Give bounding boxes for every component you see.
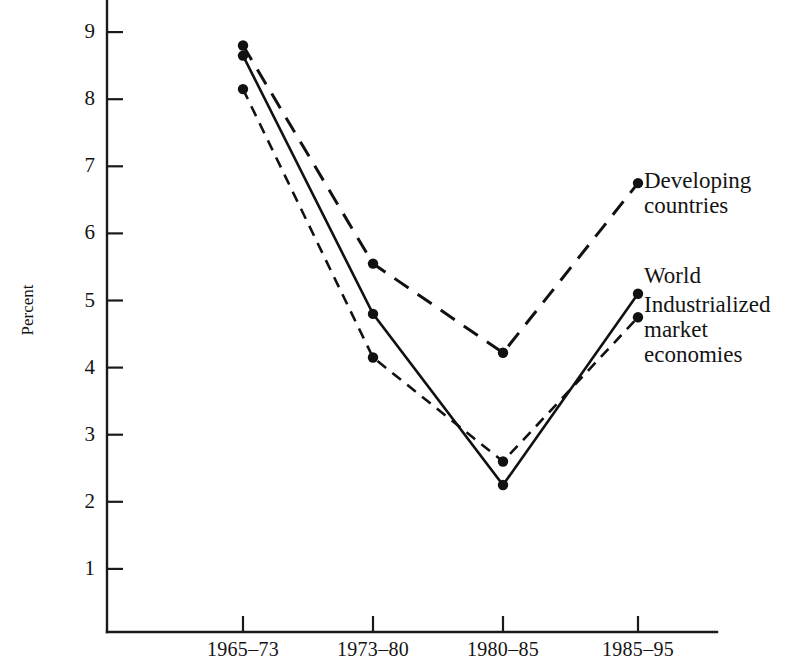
x-tick-label-2: 1980–85 xyxy=(433,638,573,660)
y-axis-ticks xyxy=(107,32,123,569)
data-point-marker xyxy=(498,348,508,358)
x-tick-label-3: 1985–95 xyxy=(568,638,708,660)
y-tick-label-5: 5 xyxy=(55,290,95,311)
data-point-marker xyxy=(238,50,248,60)
series-label-world: World xyxy=(644,263,701,288)
y-tick-label-1: 1 xyxy=(55,558,95,579)
data-point-marker xyxy=(368,352,378,362)
data-point-marker xyxy=(368,258,378,268)
data-point-marker xyxy=(368,309,378,319)
series-paths xyxy=(243,46,638,486)
y-tick-label-4: 4 xyxy=(55,357,95,378)
x-tick-label-1: 1973–80 xyxy=(303,638,443,660)
y-tick-label-7: 7 xyxy=(55,155,95,176)
data-point-marker xyxy=(633,312,643,322)
y-tick-label-2: 2 xyxy=(55,491,95,512)
chart-figure: 123456789 1965–731973–801980–851985–95 P… xyxy=(0,0,804,672)
series-line-world xyxy=(243,56,638,485)
series-markers xyxy=(238,40,643,490)
x-tick-label-0: 1965–73 xyxy=(173,638,313,660)
data-point-marker xyxy=(238,40,248,50)
series-line-developing-countries xyxy=(243,46,638,353)
data-point-marker xyxy=(498,480,508,490)
data-point-marker xyxy=(633,289,643,299)
y-axis-title: Percent xyxy=(18,260,38,360)
y-tick-label-9: 9 xyxy=(55,21,95,42)
data-point-marker xyxy=(498,456,508,466)
series-label-developing-countries: Developing countries xyxy=(644,168,751,218)
y-tick-label-6: 6 xyxy=(55,222,95,243)
series-label-industrialized-market-economies: Industrialized market economies xyxy=(644,292,770,367)
y-tick-label-8: 8 xyxy=(55,88,95,109)
y-tick-label-3: 3 xyxy=(55,424,95,445)
data-point-marker xyxy=(633,178,643,188)
axes-group xyxy=(107,0,717,632)
data-point-marker xyxy=(238,84,248,94)
x-axis-ticks xyxy=(243,616,638,632)
